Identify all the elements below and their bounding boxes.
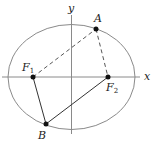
label-f2: F2 [105,81,118,95]
segment-b-f2 [46,77,108,124]
point-b [44,122,49,127]
label-f2-sub: 2 [114,87,118,95]
x-axis-label: x [144,70,151,83]
segment-f1-a [33,29,96,77]
label-f1-main: F [21,61,30,74]
point-f2 [106,75,111,80]
point-f1 [31,75,36,80]
label-f2-main: F [105,81,114,94]
label-f1: F1 [21,61,34,75]
point-a [94,27,99,32]
label-a: A [93,12,102,25]
segment-f1-b [33,77,46,124]
label-f1-sub: 1 [30,67,34,75]
segment-a-f2 [96,29,108,77]
y-axis-label: y [67,2,75,15]
ellipse-diagram: y x A B F1 F2 [0,0,152,144]
label-b: B [37,129,46,142]
